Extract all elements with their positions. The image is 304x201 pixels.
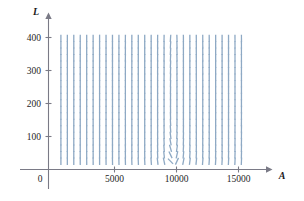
x-tick-label: 5000	[105, 174, 124, 184]
field-segment	[176, 151, 178, 158]
field-segment	[169, 145, 171, 152]
field-segment	[164, 151, 165, 158]
direction-field	[61, 35, 242, 165]
x-axis-arrow	[266, 166, 273, 172]
field-segment	[169, 151, 172, 158]
x-tick-label: 10000	[165, 174, 189, 184]
y-tick-label: 200	[27, 99, 42, 109]
field-segment	[209, 158, 210, 165]
x-axis	[20, 166, 273, 172]
field-segment	[170, 125, 171, 132]
field-segment	[202, 158, 203, 165]
y-axis-arrow	[45, 13, 51, 20]
field-segment	[175, 158, 178, 165]
origin-label: 0	[38, 174, 43, 184]
field-segment	[196, 158, 197, 165]
field-segment	[163, 158, 165, 165]
slope-field-figure: 50001000015000100200300400 L A 0	[0, 0, 304, 201]
figure-canvas: 50001000015000100200300400 L A 0	[0, 0, 304, 201]
y-tick-label: 100	[27, 132, 42, 142]
field-segment	[183, 151, 184, 158]
field-segment	[176, 145, 177, 152]
field-segment	[170, 138, 171, 145]
field-segment	[177, 138, 178, 145]
x-tick-label: 15000	[227, 174, 251, 184]
y-axis-label: L	[32, 6, 39, 17]
field-segment	[157, 158, 158, 165]
y-axis	[45, 13, 51, 190]
y-tick-label: 300	[27, 66, 42, 76]
x-axis-label: A	[278, 170, 286, 181]
field-segment	[183, 158, 184, 165]
y-tick-label: 400	[27, 33, 42, 43]
field-segment	[170, 35, 171, 42]
field-segment	[168, 159, 173, 164]
field-segment	[189, 158, 190, 165]
field-segment	[151, 158, 152, 165]
field-segment	[170, 132, 171, 139]
